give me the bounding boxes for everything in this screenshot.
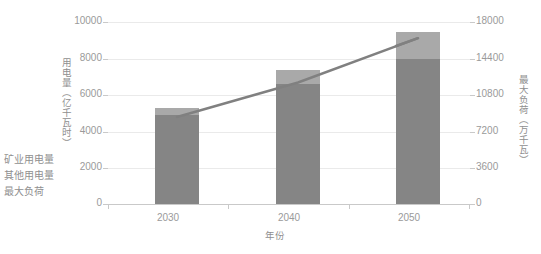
legend-item-max-load: 最大负荷 — [4, 185, 54, 198]
y2-tick-label: 14400 — [476, 52, 522, 63]
y-axis-title: 用电量（亿千瓦时） — [59, 28, 73, 178]
x-tick-mark — [349, 205, 350, 209]
x-tick-label-2050: 2050 — [379, 212, 439, 223]
y2-tick-mark — [470, 132, 475, 133]
max-load-polyline — [177, 38, 418, 117]
y-tick-label: 4000 — [56, 125, 102, 136]
y2-tick-label: 18000 — [476, 15, 522, 26]
max-load-line-series — [108, 22, 470, 205]
y-tick-label: 0 — [56, 197, 102, 208]
x-tick-label-2040: 2040 — [259, 212, 319, 223]
x-axis-title: 年份 — [0, 228, 541, 242]
y2-tick-label: 3600 — [476, 161, 522, 172]
x-tick-mark — [228, 205, 229, 209]
y-tick-label: 6000 — [56, 88, 102, 99]
y2-tick-label: 0 — [476, 197, 522, 208]
y-tick-label: 8000 — [56, 52, 102, 63]
chart-canvas: 矿业用电量 其他用电量 最大负荷 用电量（亿千瓦时） 最大负荷（万千瓦） 年份 — [0, 0, 541, 254]
y-tick-label: 10000 — [56, 15, 102, 26]
plot-area: 10000 8000 6000 4000 2000 0 18000 14400 … — [108, 22, 470, 205]
x-tick-label-2030: 2030 — [138, 212, 198, 223]
y2-tick-label: 10800 — [476, 88, 522, 99]
y2-tick-label: 7200 — [476, 125, 522, 136]
legend-item-other-power: 其他用电量 — [4, 169, 54, 182]
x-axis-title-text: 年份 — [265, 230, 285, 241]
y-tick-label: 2000 — [56, 161, 102, 172]
x-tick-mark — [108, 205, 109, 209]
y2-tick-mark — [470, 204, 475, 205]
y2-tick-mark — [470, 168, 475, 169]
y2-tick-mark — [470, 59, 475, 60]
y2-tick-mark — [470, 95, 475, 96]
y2-tick-mark — [470, 22, 475, 23]
x-tick-mark — [469, 205, 470, 209]
legend-item-mining-power: 矿业用电量 — [4, 153, 54, 166]
chart-legend: 矿业用电量 其他用电量 最大负荷 — [4, 153, 54, 198]
max-load-endpoint-marker — [396, 38, 418, 46]
